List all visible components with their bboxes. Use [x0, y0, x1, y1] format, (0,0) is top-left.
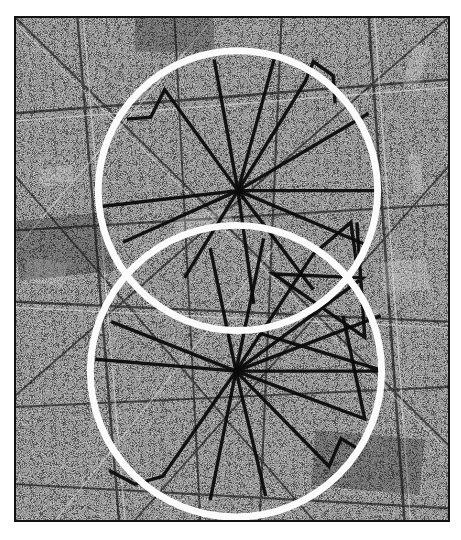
map-image-frame [14, 16, 450, 522]
map-base-texture [16, 18, 448, 520]
figure-root: Two overlapping survey circles on a high… [0, 0, 461, 540]
